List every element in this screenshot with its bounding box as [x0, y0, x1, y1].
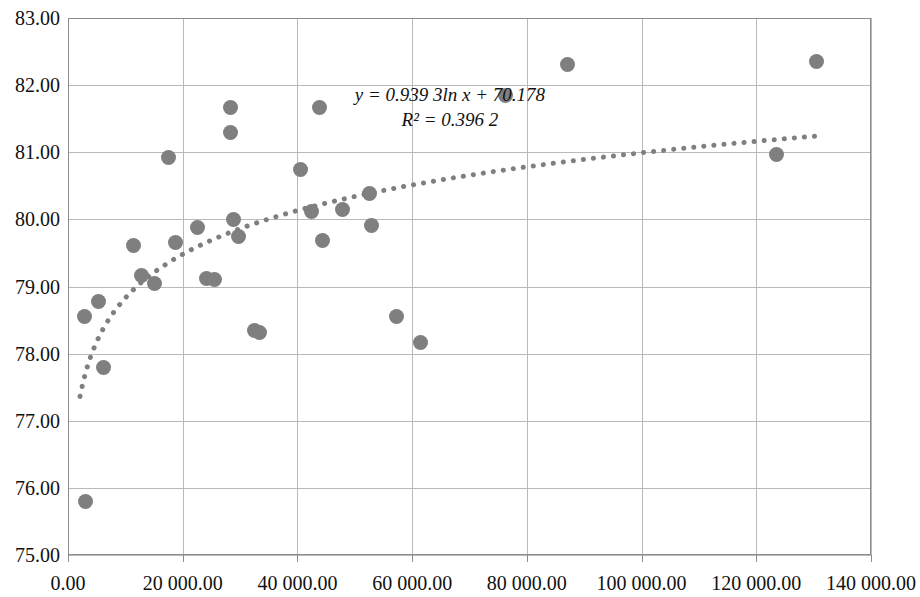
x-axis-tick-mark — [527, 555, 528, 562]
scatter-chart: 75.0076.0077.0078.0079.0080.0081.0082.00… — [0, 0, 920, 597]
x-axis-tick-mark — [183, 555, 184, 562]
x-axis-tick-mark — [642, 555, 643, 562]
data-point — [77, 309, 92, 324]
data-point — [226, 212, 241, 227]
data-point — [190, 220, 205, 235]
x-axis-tick-label: 140 000.00 — [826, 573, 916, 593]
gridline-horizontal — [68, 555, 871, 556]
x-axis-tick-label: 20 000.00 — [143, 573, 223, 593]
x-axis-tick-mark — [871, 555, 872, 562]
x-axis-tick-label: 60 000.00 — [372, 573, 452, 593]
x-axis-tick-mark — [412, 555, 413, 562]
y-axis-tick-label: 80.00 — [0, 209, 60, 229]
y-axis-tick-label: 83.00 — [0, 8, 60, 28]
data-point — [207, 272, 222, 287]
data-point — [389, 309, 404, 324]
data-point — [312, 100, 327, 115]
y-axis-tick-label: 75.00 — [0, 545, 60, 565]
data-point — [304, 204, 319, 219]
y-axis-tick-label: 78.00 — [0, 344, 60, 364]
data-point — [223, 100, 238, 115]
data-point — [252, 325, 267, 340]
gridline-vertical — [871, 18, 872, 555]
data-point — [78, 494, 93, 509]
x-axis-tick-mark — [297, 555, 298, 562]
data-point — [147, 276, 162, 291]
y-axis-tick-label: 81.00 — [0, 142, 60, 162]
y-axis-tick-label: 79.00 — [0, 277, 60, 297]
x-axis-tick-mark — [756, 555, 757, 562]
y-axis-tick-label: 82.00 — [0, 75, 60, 95]
data-point — [161, 150, 176, 165]
x-axis-tick-label: 80 000.00 — [487, 573, 567, 593]
data-point — [223, 125, 238, 140]
trendline-equation-text: y = 0.939 3ln x + 70.178 — [355, 82, 545, 107]
y-axis-tick-label: 76.00 — [0, 478, 60, 498]
trendline-rsquared-text: R² = 0.396 2 — [355, 107, 545, 132]
trendline-equation-annotation: y = 0.939 3ln x + 70.178 R² = 0.396 2 — [355, 82, 545, 132]
data-point — [413, 335, 428, 350]
plot-area: y = 0.939 3ln x + 70.178 R² = 0.396 2 — [68, 18, 871, 555]
data-point — [315, 233, 330, 248]
x-axis-tick-label: 120 000.00 — [711, 573, 801, 593]
data-point — [560, 57, 575, 72]
data-point — [293, 162, 308, 177]
y-axis-tick-label: 77.00 — [0, 411, 60, 431]
x-axis-tick-label: 0.00 — [51, 573, 86, 593]
x-axis-tick-label: 100 000.00 — [597, 573, 687, 593]
x-axis-tick-mark — [68, 555, 69, 562]
data-point — [769, 147, 784, 162]
x-axis-tick-label: 40 000.00 — [257, 573, 337, 593]
